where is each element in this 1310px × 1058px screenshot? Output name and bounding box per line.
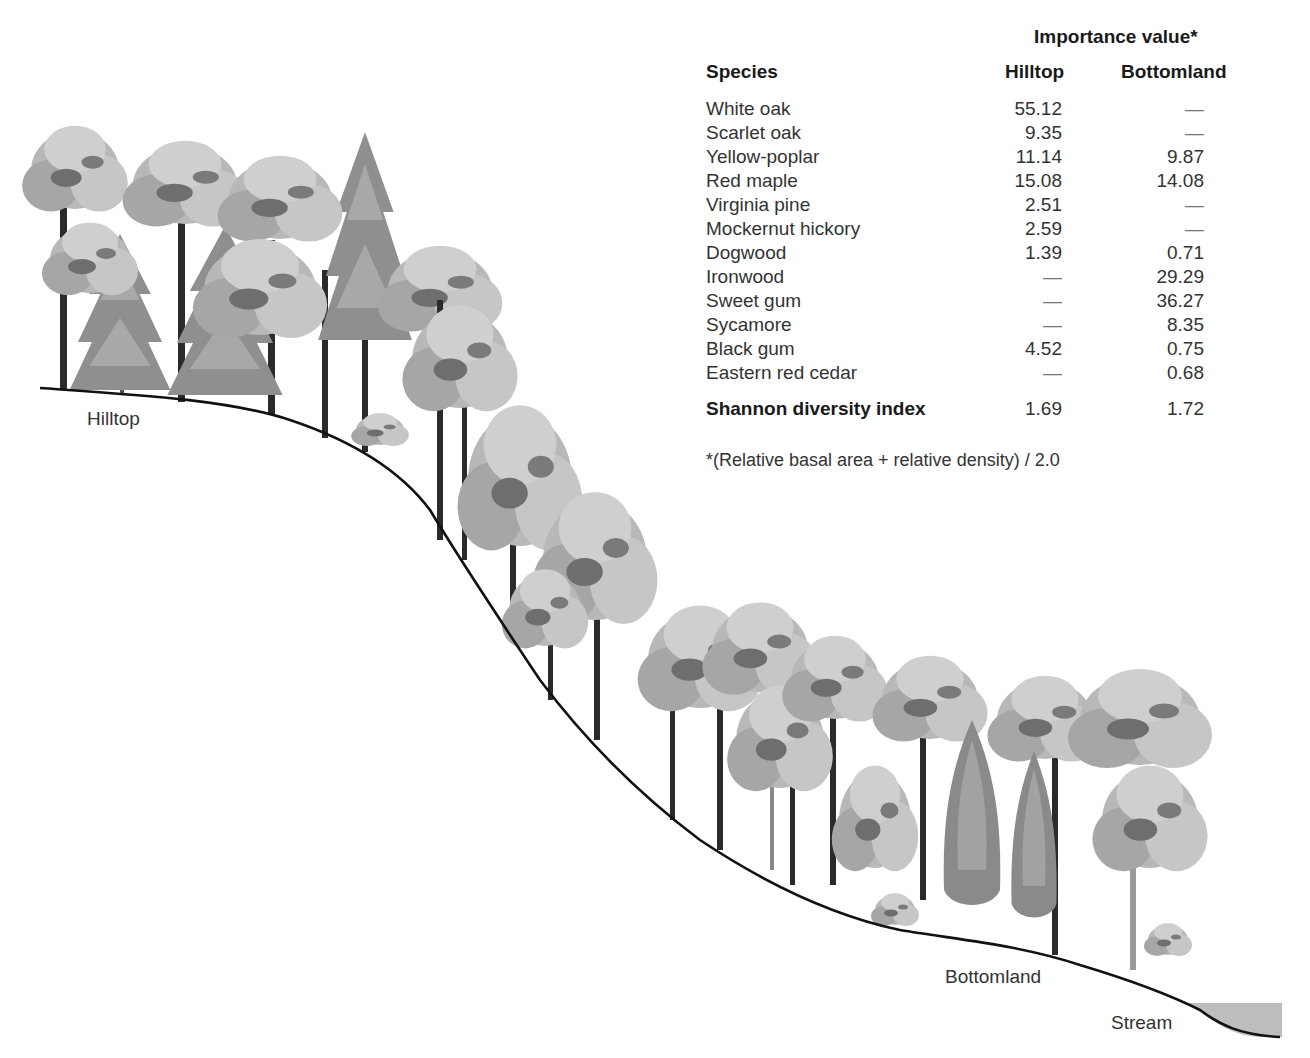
- table-row: Eastern red cedar—0.68: [706, 362, 1266, 386]
- hilltop-value: —: [956, 314, 1062, 336]
- bottomland-value: 8.35: [1098, 314, 1204, 336]
- species-name: Sweet gum: [706, 290, 801, 312]
- table-row: Red maple15.0814.08: [706, 170, 1266, 194]
- hilltop-value: —: [956, 266, 1062, 288]
- bottomland-column-header: Bottomland: [1121, 61, 1227, 83]
- species-name: Virginia pine: [706, 194, 810, 216]
- species-column-header: Species: [706, 61, 778, 83]
- hilltop-column-header: Hilltop: [1005, 61, 1064, 83]
- bottomland-value: —: [1098, 194, 1204, 216]
- bottomland-value: —: [1098, 218, 1204, 240]
- table-row: Ironwood—29.29: [706, 266, 1266, 290]
- bottomland-value: —: [1098, 122, 1204, 144]
- shannon-bottomland-value: 1.72: [1098, 398, 1204, 420]
- table-row: Virginia pine2.51—: [706, 194, 1266, 218]
- bottomland-value: 0.75: [1098, 338, 1204, 360]
- bottomland-value: 9.87: [1098, 146, 1204, 168]
- species-name: Yellow-poplar: [706, 146, 819, 168]
- hilltop-label: Hilltop: [87, 408, 140, 430]
- species-name: Red maple: [706, 170, 798, 192]
- bottomland-value: 14.08: [1098, 170, 1204, 192]
- hilltop-value: 11.14: [956, 146, 1062, 168]
- bottomland-value: 0.71: [1098, 242, 1204, 264]
- bottomland-value: 36.27: [1098, 290, 1204, 312]
- hilltop-value: 4.52: [956, 338, 1062, 360]
- species-name: Eastern red cedar: [706, 362, 857, 384]
- hilltop-value: 15.08: [956, 170, 1062, 192]
- table-row: Dogwood1.390.71: [706, 242, 1266, 266]
- shannon-label: Shannon diversity index: [706, 398, 926, 420]
- shannon-hilltop-value: 1.69: [956, 398, 1062, 420]
- bottomland-value: 29.29: [1098, 266, 1204, 288]
- table-row: Sycamore—8.35: [706, 314, 1266, 338]
- species-name: Dogwood: [706, 242, 786, 264]
- hilltop-value: 9.35: [956, 122, 1062, 144]
- importance-value-footnote: *(Relative basal area + relative density…: [706, 450, 1060, 471]
- hilltop-value: —: [956, 362, 1062, 384]
- species-name: Sycamore: [706, 314, 792, 336]
- stream-label: Stream: [1111, 1012, 1172, 1034]
- hilltop-value: 2.51: [956, 194, 1062, 216]
- importance-value-header: Importance value*: [1034, 26, 1198, 48]
- bottomland-value: 0.68: [1098, 362, 1204, 384]
- table-row: Sweet gum—36.27: [706, 290, 1266, 314]
- species-name: Black gum: [706, 338, 795, 360]
- hilltop-value: 55.12: [956, 98, 1062, 120]
- hilltop-value: —: [956, 290, 1062, 312]
- hilltop-value: 1.39: [956, 242, 1062, 264]
- table-row: Yellow-poplar11.149.87: [706, 146, 1266, 170]
- species-name: Scarlet oak: [706, 122, 801, 144]
- bottomland-value: —: [1098, 98, 1204, 120]
- table-row: Scarlet oak9.35—: [706, 122, 1266, 146]
- bottomland-trees: [638, 602, 1212, 970]
- shannon-diversity-row: Shannon diversity index 1.69 1.72: [706, 398, 1266, 422]
- species-name: White oak: [706, 98, 790, 120]
- table-row: Black gum4.520.75: [706, 338, 1266, 362]
- table-row: White oak55.12—: [706, 98, 1266, 122]
- species-rows: White oak55.12— Scarlet oak9.35— Yellow-…: [706, 98, 1266, 386]
- species-name: Ironwood: [706, 266, 784, 288]
- slope-trees: [402, 300, 657, 740]
- species-name: Mockernut hickory: [706, 218, 860, 240]
- table-row: Mockernut hickory2.59—: [706, 218, 1266, 242]
- hilltop-value: 2.59: [956, 218, 1062, 240]
- stream-water: [1188, 1003, 1282, 1037]
- bottomland-label: Bottomland: [945, 966, 1041, 988]
